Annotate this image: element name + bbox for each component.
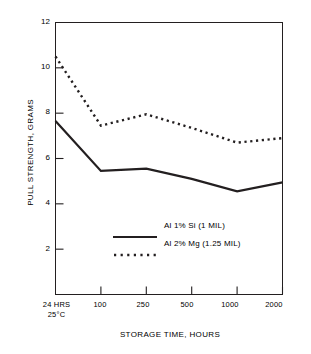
legend-label-series-1: Al 1% Si (1 MIL): [164, 221, 225, 231]
y-tick-label-4: 4: [24, 199, 50, 207]
x-tick-label-2000: 2000: [257, 300, 291, 310]
y-tick-label-8: 8: [24, 108, 50, 116]
y-tick-label-12: 12: [24, 18, 50, 26]
legend-item-series-1: Al 1% Si (1 MIL): [113, 219, 278, 237]
x-tick-label-24hrs-line2: 25°C: [29, 310, 84, 320]
y-axis-title: PULL STRENGTH, GRAMS: [26, 53, 35, 253]
x-tick-label-100: 100: [83, 300, 117, 310]
legend-key-dotted-line: [113, 243, 157, 247]
y-tick-label-6: 6: [24, 154, 50, 162]
y-tick-label-2: 2: [24, 245, 50, 253]
legend-item-series-2: Al 2% Mg (1.25 MIL): [113, 237, 278, 255]
chart-legend: Al 1% Si (1 MIL) Al 2% Mg (1.25 MIL): [113, 219, 278, 255]
x-tick-label-24hrs: 24 HRS 25°C: [29, 300, 84, 319]
legend-key-solid-line: [113, 225, 157, 229]
x-tick-label-1000: 1000: [213, 300, 247, 310]
x-tick-label-250: 250: [126, 300, 160, 310]
chart-figure: PULL STRENGTH, GRAMS 12 10 8 6 4 2 24 HR…: [0, 0, 311, 354]
x-tick-label-500: 500: [170, 300, 204, 310]
x-tick-label-24hrs-line1: 24 HRS: [43, 300, 70, 309]
legend-label-series-2: Al 2% Mg (1.25 MIL): [164, 239, 241, 249]
x-axis-title: STORAGE TIME, HOURS: [55, 330, 285, 339]
y-tick-label-10: 10: [24, 63, 50, 71]
